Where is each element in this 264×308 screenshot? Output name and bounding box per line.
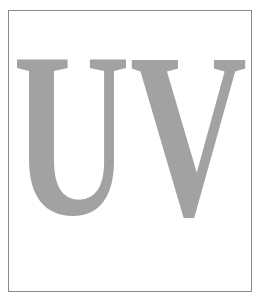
uv-text: UV <box>13 11 247 265</box>
uv-letters-graphic: UV <box>9 11 251 291</box>
bordered-frame: UV <box>8 10 252 292</box>
